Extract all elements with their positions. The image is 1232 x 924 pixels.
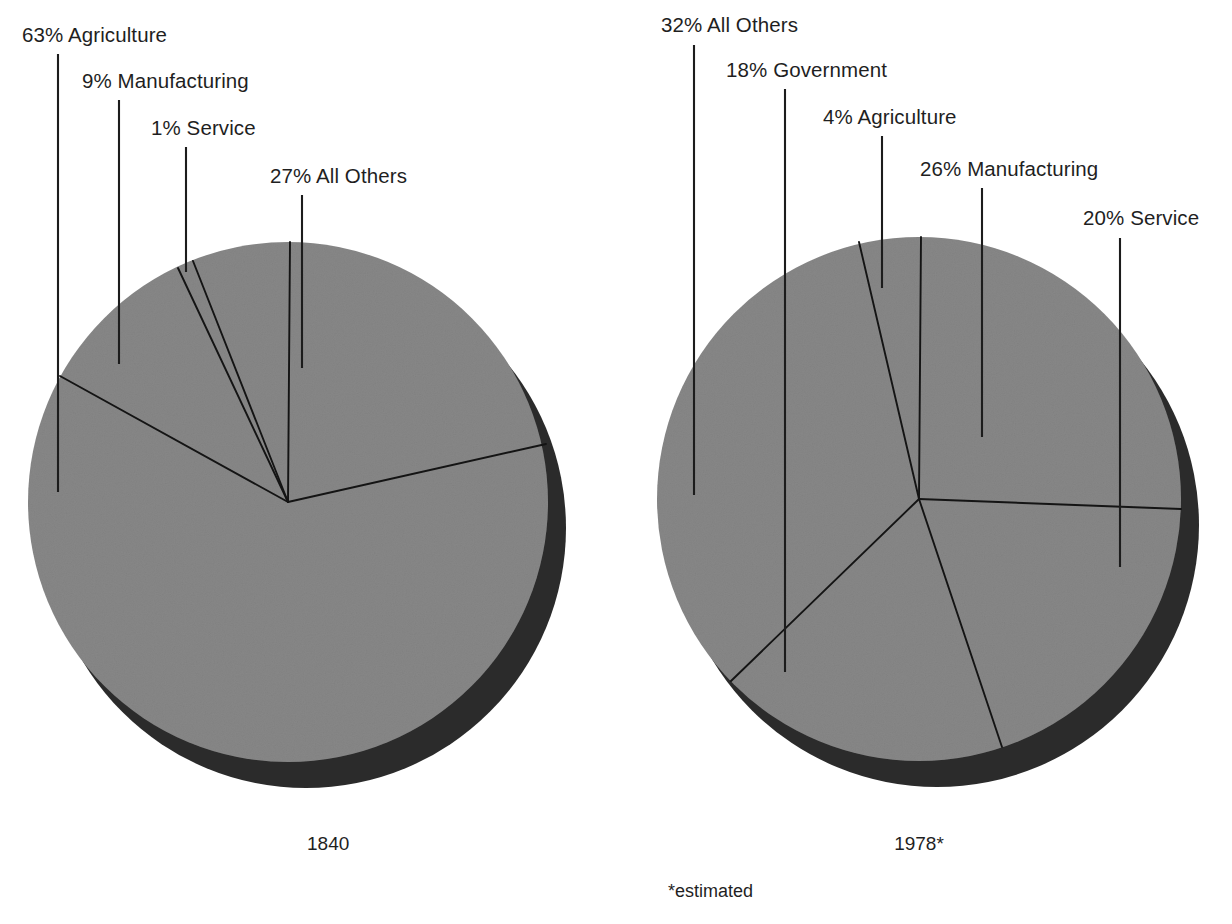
label-service-1978: 20% Service bbox=[1083, 206, 1199, 229]
label-agriculture-1978: 4% Agriculture bbox=[823, 105, 957, 128]
label-allothers-1978: 32% All Others bbox=[661, 13, 798, 36]
label-service-1840: 1% Service bbox=[151, 116, 256, 139]
label-allothers-1840: 27% All Others bbox=[270, 164, 407, 187]
label-manufacturing-1978: 26% Manufacturing bbox=[920, 157, 1098, 180]
caption-1978: 1978* bbox=[894, 833, 944, 854]
label-government-1978: 18% Government bbox=[726, 58, 887, 81]
label-manufacturing-1840: 9% Manufacturing bbox=[82, 69, 249, 92]
footnote-estimated: *estimated bbox=[668, 881, 753, 901]
labor-force-pie-figure: 63% Agriculture 9% Manufacturing 1% Serv… bbox=[0, 0, 1232, 924]
caption-1840: 1840 bbox=[307, 833, 349, 854]
label-agriculture-1840: 63% Agriculture bbox=[22, 23, 167, 46]
